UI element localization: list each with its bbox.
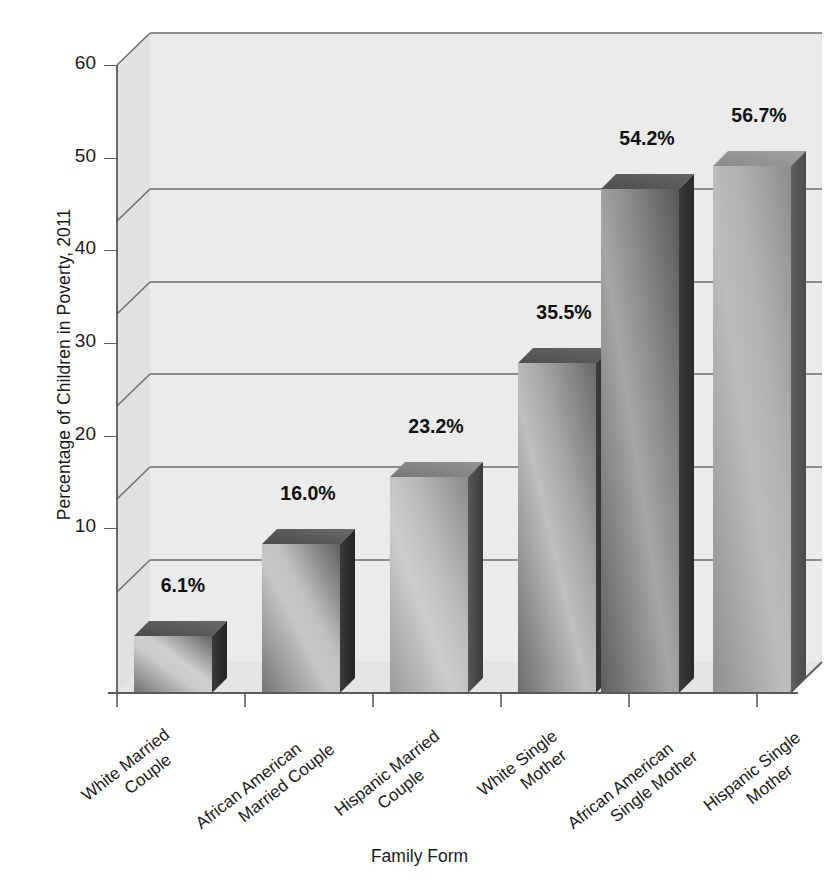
chart-canvas: 60 50 40 30 20 10 Percentage of Children… (0, 0, 839, 895)
x-category-label-african-american-married-couple: African American Married Couple (192, 723, 339, 851)
x-category-label-white-married-couple: White Married Couple (78, 725, 187, 823)
x-axis-category-labels: White Married Couple African American Ma… (0, 0, 839, 895)
x-category-label-hispanic-married-couple: Hispanic Married Couple (331, 726, 457, 837)
x-category-label-african-american-single-mother: African American Single Mother (564, 730, 702, 851)
x-category-label-hispanic-single-mother: Hispanic Single Mother (700, 728, 818, 833)
x-category-label-white-single-mother: White Single Mother (474, 726, 575, 817)
